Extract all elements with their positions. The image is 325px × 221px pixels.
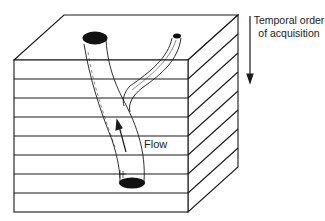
small-hole-top: [173, 34, 181, 39]
flow-label: Flow: [144, 138, 167, 151]
temporal-label-line2: of acquisition: [253, 27, 325, 40]
large-hole-top: [83, 32, 108, 45]
temporal-arrowhead-icon: [247, 74, 253, 83]
temporal-label-line1: Temporal order: [253, 14, 325, 27]
temporal-label: Temporal order of acquisition: [253, 14, 325, 40]
bottom-hole: [119, 178, 145, 189]
